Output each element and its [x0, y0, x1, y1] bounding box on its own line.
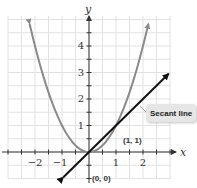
x-tick-label: −2 — [28, 157, 43, 168]
secant-line-figure: −2 −1 1 2 1 2 3 4 x y Secant line (1, 1)… — [0, 0, 197, 188]
y-tick-label: 2 — [78, 93, 84, 104]
point-label-0-0: (0, 0) — [92, 174, 111, 183]
x-tick-label: 2 — [140, 157, 146, 168]
chart-canvas: −2 −1 1 2 1 2 3 4 x y Secant line (1, 1)… — [0, 0, 197, 188]
y-axis-label: y — [84, 3, 92, 16]
y-tick-label: 3 — [78, 67, 84, 78]
x-tick-label: −1 — [53, 157, 68, 168]
point-label-1-1: (1, 1) — [123, 136, 142, 145]
y-tick-label: 1 — [78, 120, 84, 131]
x-axis-label: x — [180, 146, 187, 159]
secant-callout: Secant line — [140, 104, 196, 122]
y-tick-label: 4 — [78, 40, 84, 51]
x-tick-label: 1 — [113, 157, 119, 168]
callout-text: Secant line — [150, 109, 193, 118]
x-tick-labels: −2 −1 1 2 — [28, 157, 147, 168]
